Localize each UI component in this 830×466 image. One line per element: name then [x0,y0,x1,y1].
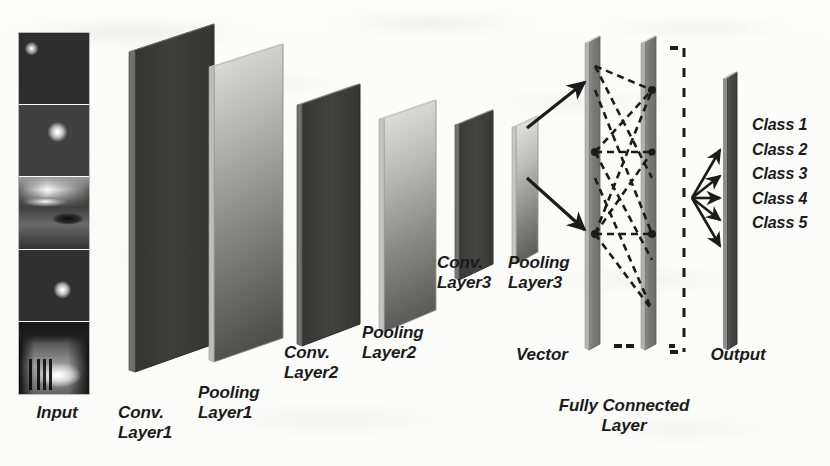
label-fully-connected-layer: Fully Connected Layer [524,396,724,435]
input-thumbnail [19,33,89,105]
input-thumbnail [19,322,89,394]
output-class-list: Class 1 Class 2 Class 3 Class 4 Class 5 [752,116,807,233]
label-vector: Vector [516,345,588,365]
pooling3-to-fc-arrows [525,60,605,260]
label-output: Output [695,345,781,365]
input-thumbnail [19,250,89,322]
label-conv-layer3: Conv. Layer3 [437,253,511,292]
cnn-architecture-figure: Input Conv. Layer1 Pooling Layer1 Conv. … [0,0,830,466]
class-label: Class 5 [752,214,807,233]
label-pooling-layer2: Pooling Layer2 [362,323,448,362]
class-label: Class 1 [752,116,807,135]
label-pooling-layer1: Pooling Layer1 [198,383,284,422]
label-conv-layer2: Conv. Layer2 [284,343,360,382]
input-thumbnail [19,177,89,249]
output-class-fan-arrows [684,140,734,260]
label-input: Input [22,403,92,423]
label-conv-layer1: Conv. Layer1 [118,403,194,442]
label-pooling-layer3: Pooling Layer3 [508,253,592,292]
input-thumbnail [19,105,89,177]
class-label: Class 2 [752,141,807,160]
class-label: Class 4 [752,190,807,209]
class-label: Class 3 [752,165,807,184]
input-image-stack [18,32,90,395]
